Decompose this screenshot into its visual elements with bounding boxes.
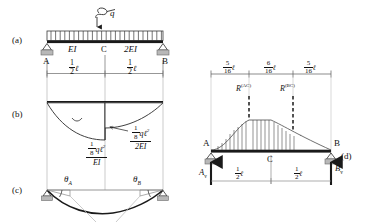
mei-curve-ac [47, 103, 105, 140]
conjugate-load-area [211, 120, 331, 150]
stiffness-label-ei: EI [68, 45, 77, 54]
node-label-b-a: B [162, 57, 168, 66]
span-dim-left-d: 12ℓ [235, 166, 243, 182]
stiffness-label-2ei: 2EI [124, 45, 137, 54]
panel-b-tag: (b) [12, 110, 23, 119]
dim-d-3: 516ℓ [304, 60, 316, 76]
panel-c-tag: (c) [12, 186, 22, 195]
node-label-a-a: A [43, 57, 50, 66]
theta-b-label: θB [133, 175, 141, 186]
load-label-q: q [110, 9, 115, 18]
support-pin-a [41, 44, 53, 56]
beam-d [211, 150, 331, 153]
resultant-label-bc: R(BC) [280, 84, 295, 93]
support-roller-c-right [158, 191, 169, 201]
span-dim-right-d: 12ℓ [294, 166, 302, 182]
panel-d-group [205, 71, 337, 186]
dimension-line-a [47, 55, 163, 78]
panel-a-tag: (a) [12, 36, 22, 45]
leader-right-value [110, 127, 128, 131]
support-roller-b [157, 44, 169, 56]
distributed-load [47, 31, 163, 41]
reaction-label-av: Av [199, 168, 207, 179]
theta-a-label: θA [64, 175, 72, 186]
mei-value-left: 18qℓ2 EI [86, 140, 107, 167]
resultant-label-ac: R(AC) [236, 84, 251, 93]
dim-left-half-ell-a: 12ℓ [69, 59, 78, 77]
node-label-c-d: C [267, 155, 273, 164]
panel-a-group [41, 8, 169, 78]
node-label-b-d: B [334, 139, 340, 148]
node-label-a-d: A [203, 139, 210, 148]
panel-c-group [42, 190, 169, 222]
dim-right-half-ell-a: 12ℓ [127, 59, 136, 77]
panel-d-tag: (d) [341, 152, 352, 161]
mei-value-right: 18qℓ2 2EI [130, 124, 151, 151]
node-label-c-a: C [101, 45, 107, 54]
support-pin-c-left [42, 191, 53, 201]
beam-analysis-figure [0, 0, 366, 222]
beam-a [47, 41, 163, 44]
dim-d-1: 516ℓ [223, 60, 235, 76]
deflection-curve [47, 190, 163, 214]
reaction-label-bv: Bv [335, 164, 343, 175]
dim-d-2: 616ℓ [264, 60, 276, 76]
